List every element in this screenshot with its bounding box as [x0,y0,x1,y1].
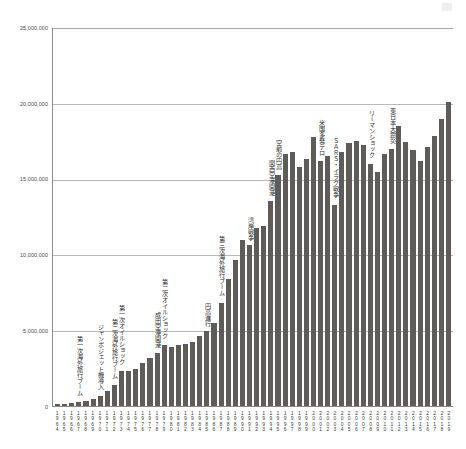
x-tick-cell: 1984 [196,409,203,449]
x-tick-cell: 1987 [217,409,224,449]
bar-cell [218,28,225,406]
bar [219,303,224,406]
x-tick-label: 1991 [246,410,251,432]
x-tick-cell: 2004 [338,409,345,449]
x-tick-label: 2001 [318,410,323,432]
bar-cell [324,28,331,406]
bar [389,149,394,406]
x-tick-label: 1983 [189,410,194,432]
x-tick-label: 1997 [289,410,294,432]
bar-cell [296,28,303,406]
x-tick-label: 1980 [168,410,173,432]
bar-cell [445,28,452,406]
x-tick-label: 1994 [268,410,273,432]
x-tick-label: 1979 [161,410,166,432]
bar-cell [182,28,189,406]
x-tick-label: 2012 [396,410,401,432]
bar [119,371,124,406]
x-tick-cell: 1972 [110,409,117,449]
x-tick-cell: 1991 [245,409,252,449]
x-tick-cell: 1980 [167,409,174,449]
annotation-label: 関西空港開港 [268,160,274,196]
bar [418,161,423,406]
bar [176,345,181,406]
bar-cell [225,28,232,406]
annotation-label: ジャンボジェット機導入 [97,324,103,390]
bar-cell [282,28,289,406]
bar [133,369,138,406]
annotation-label: ＳＡＲＳ・イラク戦争 [332,138,338,198]
x-tick-label: 1970 [97,410,102,432]
bar [311,137,316,406]
bar [325,156,330,406]
x-tick-cell: 2011 [388,409,395,449]
annotation-label: 米国多発テロ [318,120,324,156]
x-axis-labels: 1964196519661967196819691970197119721973… [52,409,453,449]
x-tick-label: 1977 [147,410,152,432]
bar-cell [424,28,431,406]
y-tick-label: 5,000,000 [0,328,48,334]
x-tick-cell: 1968 [82,409,89,449]
bar [98,396,103,406]
bar-cell [409,28,416,406]
annotation-label: 第二次オイルショック [161,279,167,339]
bar [275,175,280,406]
bar [354,141,359,406]
bar-cell [374,28,381,406]
x-tick-label: 1974 [125,410,130,432]
x-tick-label: 2009 [375,410,380,432]
x-tick-cell: 2014 [409,409,416,449]
x-tick-cell: 2010 [381,409,388,449]
x-tick-cell: 1970 [96,409,103,449]
bar [169,347,174,406]
bar-cell [381,28,388,406]
plot-area: 第一次海外旅行ブームジャンボジェット機導入第二次海外旅行ブーム第一次オイルショッ… [52,28,453,407]
bar [297,167,302,406]
bar-cell [232,28,239,406]
x-tick-cell: 2012 [395,409,402,449]
x-tick-label: 1989 [232,410,237,432]
y-tick-label: 20,000,000 [0,101,48,107]
bar [147,358,152,406]
x-tick-label: 1966 [68,410,73,432]
x-tick-label: 1987 [218,410,223,432]
x-tick-label: 1996 [282,410,287,432]
x-tick-label: 2007 [360,410,365,432]
x-tick-cell: 1981 [174,409,181,449]
x-tick-cell: 2001 [317,409,324,449]
bar-cell [367,28,374,406]
x-tick-cell: 1983 [188,409,195,449]
x-tick-label: 1968 [83,410,88,432]
x-tick-cell: 1996 [281,409,288,449]
bar [368,164,373,406]
bar-cell [239,28,246,406]
x-tick-cell: 2019 [445,409,452,449]
y-tick-label: 25,000,000 [0,25,48,31]
bar-cell [331,28,338,406]
x-tick-label: 2017 [432,410,437,432]
x-tick-cell: 1999 [302,409,309,449]
x-tick-cell: 2003 [331,409,338,449]
bar-cell [139,28,146,406]
bar [361,145,366,407]
x-tick-cell: 1998 [295,409,302,449]
x-tick-cell: 2008 [367,409,374,449]
bar [62,404,67,406]
x-tick-label: 2010 [382,410,387,432]
bar [69,403,74,406]
x-tick-cell: 1990 [238,409,245,449]
x-tick-label: 2016 [425,410,430,432]
annotation-label: 第二次海外旅行ブーム [111,319,117,379]
bar-cell [388,28,395,406]
bar-cell [146,28,153,406]
x-tick-cell: 1973 [117,409,124,449]
bar-cell [168,28,175,406]
annotation-label: 空前の円高 [275,140,281,170]
bar [346,143,351,406]
x-tick-cell: 1988 [224,409,231,449]
bar-cell [438,28,445,406]
x-tick-label: 2013 [403,410,408,432]
annotation-label: 円高進行 [204,303,210,327]
x-tick-label: 1975 [132,410,137,432]
x-tick-cell: 1976 [139,409,146,449]
